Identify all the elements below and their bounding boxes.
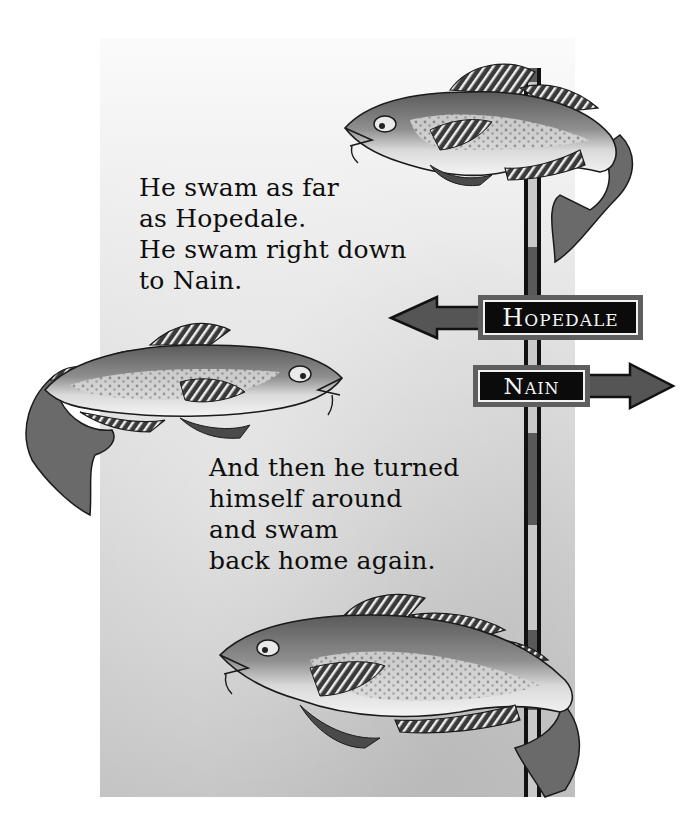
verse-line: back home again. bbox=[209, 545, 460, 576]
sign-nain: Nain bbox=[473, 365, 590, 407]
verse-line: He swam right down bbox=[139, 234, 407, 265]
verse-line: as Hopedale. bbox=[139, 203, 407, 234]
illustration-canvas bbox=[0, 0, 694, 836]
verse-line: And then he turned bbox=[209, 452, 460, 483]
verse-line: to Nain. bbox=[139, 265, 407, 296]
arrow-left-icon bbox=[391, 297, 480, 338]
sign-nain-label: Nain bbox=[478, 370, 585, 402]
verse-bottom: And then he turned himself around and sw… bbox=[209, 452, 460, 576]
sign-hopedale: Hopedale bbox=[478, 295, 643, 340]
arrow-right-icon bbox=[588, 364, 673, 408]
sign-hopedale-label: Hopedale bbox=[483, 300, 638, 335]
verse-top: He swam as far as Hopedale. He swam righ… bbox=[139, 172, 407, 296]
verse-line: himself around bbox=[209, 483, 460, 514]
verse-line: and swam bbox=[209, 514, 460, 545]
verse-line: He swam as far bbox=[139, 172, 407, 203]
